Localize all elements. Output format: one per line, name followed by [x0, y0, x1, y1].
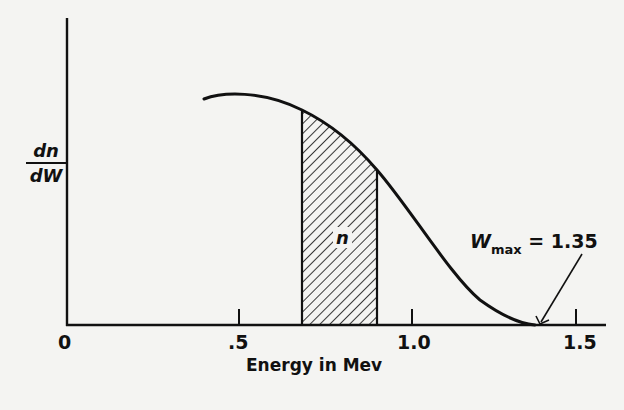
wmax-annotation: Wmax = 1.35 [470, 230, 598, 257]
wmax-symbol: W [470, 230, 491, 252]
shaded-region-n [302, 110, 377, 325]
x-axis-label: Energy in Mev [246, 355, 382, 375]
x-tick-label-0.5: .5 [228, 331, 248, 353]
region-label: n [333, 227, 352, 248]
x-tick-label-1.0: 1.0 [397, 331, 431, 353]
y-label-numerator: dn [26, 140, 66, 164]
wmax-value: = 1.35 [528, 230, 597, 252]
x-tick-label-0: 0 [58, 331, 71, 353]
chart-canvas [0, 0, 624, 410]
y-axis-label: dn dW [26, 140, 66, 186]
wmax-subscript: max [491, 242, 522, 257]
x-tick-label-1.5: 1.5 [563, 331, 597, 353]
y-label-denominator: dW [26, 164, 66, 186]
